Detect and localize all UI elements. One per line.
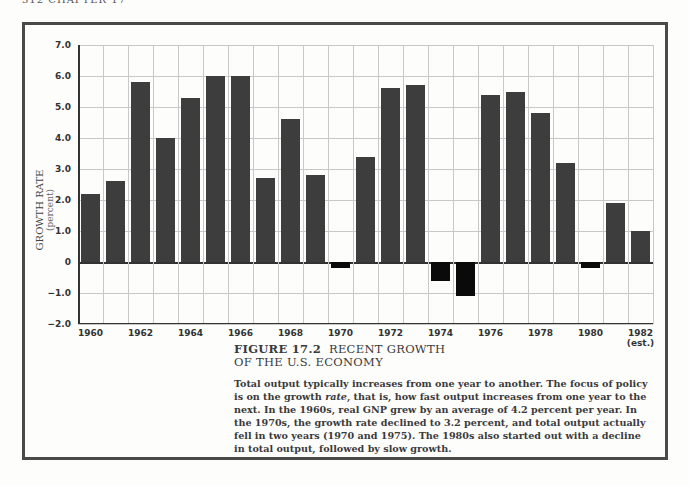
y-tick-label: 7.0 [31, 40, 71, 50]
bar-1982 [631, 231, 651, 262]
x-tick-label: 1978 [528, 328, 553, 338]
y-axis-label: GROWTH RATE [34, 170, 45, 251]
bar-1978 [531, 113, 551, 262]
x-gridline [203, 45, 204, 324]
x-gridline [178, 45, 179, 324]
x-gridline [353, 45, 354, 324]
x-tick-label: 1980 [578, 328, 603, 338]
bar-1969 [306, 175, 326, 262]
bar-1980 [581, 262, 601, 268]
x-gridline [453, 45, 454, 324]
x-gridline [653, 45, 654, 324]
x-tick-label: 1964 [178, 328, 203, 338]
y-tick-label: 4.0 [31, 133, 71, 143]
page-header: 312 CHAPTER 17 [22, 0, 126, 5]
x-gridline [278, 45, 279, 324]
x-tick-label: 1970 [328, 328, 353, 338]
y-tick-label: 5.0 [31, 102, 71, 112]
x-gridline [153, 45, 154, 324]
x-gridline [478, 45, 479, 324]
x-tick-label: 1974 [428, 328, 453, 338]
y-tick-label: −2.0 [31, 319, 71, 329]
x-gridline [253, 45, 254, 324]
bar-1976 [481, 95, 501, 262]
x-gridline [378, 45, 379, 324]
x-gridline [428, 45, 429, 324]
y-tick-label: 2.0 [31, 195, 71, 205]
figure-description-emphasis: rate [325, 391, 347, 402]
y-gridline [78, 324, 653, 325]
bar-1966 [231, 76, 251, 262]
y-tick-label: 0 [31, 257, 71, 267]
bar-1971 [356, 157, 376, 262]
bar-1972 [381, 88, 401, 262]
figure-caption: FIGURE 17.2 RECENT GROWTH OF THE U.S. EC… [234, 343, 654, 456]
y-tick-label: 6.0 [31, 71, 71, 81]
bar-1961 [106, 181, 126, 262]
x-gridline [628, 45, 629, 324]
x-tick-label: 1960 [78, 328, 103, 338]
y-gridline [78, 45, 653, 46]
figure-description: Total output typically increases from on… [234, 377, 654, 456]
y-axis [78, 45, 80, 324]
figure-title-line1: RECENT GROWTH [329, 342, 445, 356]
y-tick-label: −1.0 [31, 288, 71, 298]
bar-1960 [81, 194, 101, 262]
x-tick-label: 1976 [478, 328, 503, 338]
y-gridline [78, 76, 653, 77]
bar-1975 [456, 262, 476, 296]
x-gridline [103, 45, 104, 324]
x-gridline [528, 45, 529, 324]
bar-1981 [606, 203, 626, 262]
x-tick-label: 1962 [128, 328, 153, 338]
bar-1965 [206, 76, 226, 262]
x-tick-label: 1966 [228, 328, 253, 338]
bar-1963 [156, 138, 176, 262]
y-gridline [78, 293, 653, 294]
bar-1964 [181, 98, 201, 262]
y-tick-label: 1.0 [31, 226, 71, 236]
x-gridline [403, 45, 404, 324]
y-axis-unit: (percent) [45, 170, 56, 251]
x-tick-label: 1972 [378, 328, 403, 338]
y-gridline [78, 107, 653, 108]
x-gridline [503, 45, 504, 324]
x-gridline [228, 45, 229, 324]
figure-title: FIGURE 17.2 RECENT GROWTH OF THE U.S. EC… [234, 343, 654, 369]
bar-1973 [406, 85, 426, 262]
bar-1977 [506, 92, 526, 263]
bar-1979 [556, 163, 576, 262]
bar-1974 [431, 262, 451, 281]
x-gridline [553, 45, 554, 324]
x-gridline [578, 45, 579, 324]
x-gridline [303, 45, 304, 324]
bar-1968 [281, 119, 301, 262]
x-gridline [128, 45, 129, 324]
figure-frame: GROWTH RATE (percent) 7.06.05.04.03.02.0… [22, 22, 668, 460]
bar-1962 [131, 82, 151, 262]
figure-title-line2: OF THE U.S. ECONOMY [234, 355, 383, 369]
x-axis [78, 323, 653, 325]
zero-baseline [78, 262, 653, 264]
bar-chart-plot-area: 7.06.05.04.03.02.01.00−1.0−2.01960196219… [78, 45, 653, 324]
bar-1970 [331, 262, 351, 268]
x-gridline [603, 45, 604, 324]
x-gridline [328, 45, 329, 324]
y-axis-title: GROWTH RATE (percent) [34, 170, 56, 251]
y-tick-label: 3.0 [31, 164, 71, 174]
x-tick-label: 1968 [278, 328, 303, 338]
bar-1967 [256, 178, 276, 262]
figure-label: FIGURE 17.2 [234, 342, 321, 356]
